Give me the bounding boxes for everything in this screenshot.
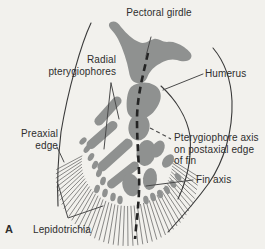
humerus-shape: [127, 83, 161, 120]
distal-radial-oval: [101, 188, 108, 198]
fin-diagram: Pectoral girdle Radial pterygiophores Hu…: [0, 0, 265, 249]
distal-radial-oval: [93, 184, 101, 194]
pectoral-girdle-shape: [109, 22, 192, 84]
axial-element-3: [142, 167, 158, 190]
panel-letter: A: [5, 223, 13, 235]
distal-radial-oval: [78, 136, 88, 146]
leader-humerus: [163, 74, 203, 90]
label-humerus: Humerus: [205, 68, 263, 80]
fin-diagram-canvas: [0, 0, 265, 249]
label-pterygiophore-axis: Pterygiophore axis on postaxial edge of …: [174, 132, 264, 167]
distal-radial-oval: [110, 192, 117, 201]
distal-radial-oval: [117, 196, 123, 205]
distal-radial-oval: [87, 152, 96, 162]
distal-radial-oval: [156, 189, 164, 199]
label-pectoral-girdle: Pectoral girdle: [119, 7, 199, 19]
distal-radial-oval: [149, 192, 156, 202]
label-preaxial-edge: Preaxial edge: [6, 128, 58, 151]
preaxial-edge-outline: [58, 23, 91, 206]
distal-radial-oval: [99, 176, 107, 186]
label-fin-axis: Fin axis: [196, 174, 256, 186]
label-lepidotrichia: Lepidotrichia: [33, 224, 123, 236]
leader-pterygiophore-axis: [150, 128, 171, 139]
label-radial-pterygiophores: Radial pterygiophores: [24, 54, 116, 77]
